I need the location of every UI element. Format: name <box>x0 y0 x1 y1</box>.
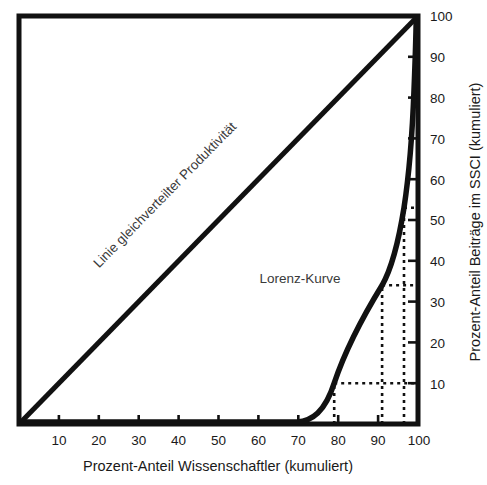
x-tick-label: 50 <box>211 433 226 448</box>
x-tick-label: 70 <box>291 433 306 448</box>
x-axis-title: Prozent-Anteil Wissenschaftler (kumulier… <box>83 458 353 474</box>
lorenz-curve-label: Lorenz-Kurve <box>259 271 340 286</box>
y-tick-label: 20 <box>430 336 445 351</box>
chart-canvas: 10 20 30 40 50 60 70 80 90 100 10 20 30 … <box>0 0 487 485</box>
y-tick-label: 50 <box>430 213 445 228</box>
equality-line <box>21 18 416 422</box>
y-tick-label: 10 <box>430 377 445 392</box>
y-tick-labels: 10 20 30 40 50 60 70 80 90 100 <box>430 9 453 391</box>
y-tick-label: 90 <box>430 50 445 65</box>
equality-line-label: Linie gleichverteilter Produktivität <box>90 119 239 271</box>
lorenz-curve-figure: 10 20 30 40 50 60 70 80 90 100 10 20 30 … <box>0 0 487 485</box>
x-tick-label: 40 <box>171 433 186 448</box>
y-axis-title: Prozent-Anteil Beiträge im SSCI (kumulie… <box>467 83 483 362</box>
x-tick-label: 60 <box>251 433 266 448</box>
x-tick-label: 30 <box>131 433 146 448</box>
x-tick-label: 20 <box>91 433 106 448</box>
x-tick-label: 90 <box>371 433 386 448</box>
y-tick-label: 30 <box>430 295 445 310</box>
y-tick-label: 60 <box>430 173 445 188</box>
x-tick-label: 10 <box>51 433 66 448</box>
y-tick-label: 80 <box>430 91 445 106</box>
guide-lines <box>334 208 418 424</box>
y-tick-label: 100 <box>430 9 453 24</box>
x-tick-label: 80 <box>331 433 346 448</box>
y-tick-label: 70 <box>430 132 445 147</box>
y-tick-label: 40 <box>430 254 445 269</box>
x-tick-labels: 10 20 30 40 50 60 70 80 90 100 <box>51 433 430 448</box>
x-tick-label: 100 <box>408 433 431 448</box>
